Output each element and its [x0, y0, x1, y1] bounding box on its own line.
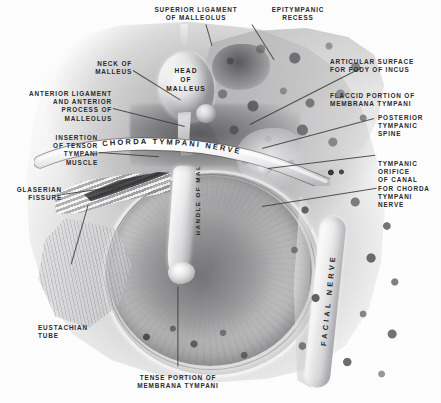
anatomical-plate: CHORDA TYMPANI NERVE HEAD OF MALLEUS HAN…	[0, 0, 441, 403]
leader-superior-ligament	[206, 24, 213, 45]
label-insertion-of-tensor-tympani-muscle: INSERTION OF TENSOR TYMPANI MUSCLE	[22, 134, 98, 167]
epitympanic-recess-shape	[212, 44, 270, 90]
leader-epitympanic-recess	[252, 24, 275, 60]
label-articular-surface-for-body-of-incus: ARTICULAR SURFACE FOR FODY OF INCUS	[330, 58, 440, 74]
umbo-shape	[168, 262, 195, 284]
label-anterior-ligament-and-anterior-process-of-malleolus: ANTERIOR LIGAMENT AND ANTERIOR PROCESS O…	[6, 90, 112, 123]
label-glaserian-fissure: GLASERIAN FISSURE	[4, 186, 62, 202]
label-superior-ligament-of-malleolus: SUPERIOR LIGAMENT OF MALLEOLUS	[144, 6, 248, 22]
manubrium-shape	[166, 165, 196, 278]
chorda-tympani-orifice-marks	[326, 168, 348, 177]
facial-nerve-text: FACIAL NERVE	[319, 241, 339, 359]
leader-insertion-tensor-tympani	[99, 152, 159, 157]
membrane-radial-striation	[110, 178, 310, 364]
leader-tense-portion	[178, 286, 179, 366]
label-flaccid-portion-of-membrana-tympani: FLACCID PORTION OF MEMBRANA TYMPANI	[330, 92, 441, 108]
leader-glaserian-fissure	[62, 186, 120, 195]
tympanic-annulus-inner-ring	[106, 174, 316, 370]
incus-articular-facet-shape	[196, 104, 216, 123]
handle-of-malleus-text: HANDLE OF MAL	[194, 152, 202, 248]
tensor-tympani-tendon-shape	[51, 168, 171, 222]
label-eustachian-tube: EUSTACHIAN TUBE	[38, 324, 110, 340]
leader-anterior-ligament	[113, 108, 185, 127]
bone-margin-shape	[292, 196, 312, 388]
leader-flaccid-portion	[262, 118, 374, 149]
marrow-flecks-right	[276, 190, 408, 390]
flaccid-portion-shape	[236, 128, 308, 188]
leader-posterior-tympanic-spine	[268, 155, 375, 169]
head-of-malleus-text: HEAD OF MALLEUS	[160, 66, 212, 93]
label-tympanic-orifice-of-canal-for-chorda-tympani-nerve: TYMPANIC ORIFICE OF CANAL FOR CHORDA TYM…	[378, 160, 441, 209]
label-neck-of-malleus: NECK OF MALLEUS	[58, 60, 132, 76]
label-posterior-tympanic-spine: POSTERIOR TYMPANIC SPINE	[378, 114, 440, 139]
leader-eustachian-tube	[71, 205, 89, 265]
tympanic-membrane-shape	[108, 176, 312, 366]
glaserian-fissure-shape	[84, 170, 170, 204]
superior-ligament-shape	[176, 24, 192, 60]
label-tense-portion-of-membrana-tympani: TENSE PORTION OF MEMBRANA TYMPANI	[116, 374, 240, 390]
leader-tympanic-orifice	[262, 188, 377, 207]
eustachian-tube-shape	[34, 218, 140, 330]
malleus-neck-shape	[169, 111, 201, 157]
label-epitympanic-recess: EPITYMPANIC RECESS	[256, 6, 340, 22]
